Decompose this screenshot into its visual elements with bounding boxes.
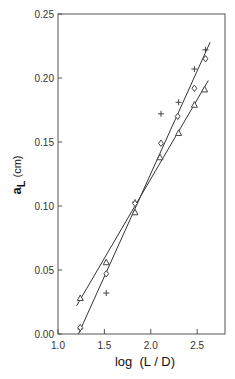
x-tick-label: 2.5	[190, 340, 204, 351]
x-tick-label: 2.0	[144, 340, 158, 351]
plus-marker	[158, 111, 164, 117]
plus-marker	[103, 290, 109, 296]
fit-upper-line	[78, 42, 210, 334]
triangle-marker	[176, 130, 182, 136]
y-tick-label: 0.15	[35, 137, 55, 148]
plot-border	[58, 14, 225, 334]
x-tick-label: 1.5	[97, 340, 111, 351]
diamond-marker	[192, 85, 197, 91]
y-tick-label: 0.00	[35, 329, 55, 340]
y-axis-label: aL(cm)	[9, 156, 27, 195]
svg-text:aL(cm): aL(cm)	[9, 156, 27, 195]
plus-marker	[191, 66, 197, 72]
triangle-marker	[191, 102, 197, 108]
x-axis-label: log (L / D)	[115, 354, 175, 369]
y-tick-label: 0.10	[35, 201, 55, 212]
y-axis-label-sub: L	[15, 180, 27, 187]
plot-frame	[58, 14, 225, 334]
fit-lower-line	[77, 81, 209, 306]
chart: 0.000.050.100.150.200.25 1.01.52.02.5 lo…	[0, 0, 235, 379]
y-tick-label: 0.05	[35, 265, 55, 276]
y-tick-label: 0.20	[35, 73, 55, 84]
plus-marker	[176, 99, 182, 105]
y-tick-label: 0.25	[35, 9, 55, 20]
fit-lines	[77, 42, 211, 334]
x-axis-ticks: 1.01.52.02.5	[51, 329, 205, 351]
triangle-marker	[202, 86, 208, 92]
x-tick-label: 1.0	[51, 340, 65, 351]
y-axis-label-unit: (cm)	[11, 156, 23, 178]
diamond-marker	[159, 140, 164, 146]
triangle-marker	[103, 259, 109, 265]
